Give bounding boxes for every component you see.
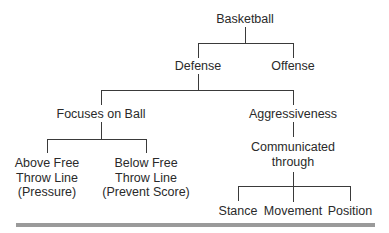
connector bbox=[146, 139, 147, 153]
node-defense: Defense bbox=[175, 59, 222, 74]
node-focuses-on-ball: Focuses on Ball bbox=[57, 107, 146, 122]
connector bbox=[238, 186, 351, 187]
node-position: Position bbox=[328, 204, 372, 219]
node-offense: Offense bbox=[271, 59, 315, 74]
connector bbox=[293, 122, 294, 137]
connector bbox=[101, 90, 102, 105]
bottom-rule bbox=[16, 223, 375, 227]
connector bbox=[101, 122, 102, 139]
connector bbox=[101, 90, 294, 91]
node-line: (Prevent Score) bbox=[102, 185, 190, 200]
node-basketball: Basketball bbox=[216, 12, 274, 27]
node-line: Communicated bbox=[251, 140, 335, 155]
connector bbox=[198, 43, 199, 58]
node-aggressiveness: Aggressiveness bbox=[249, 107, 337, 122]
node-line: Throw Line bbox=[102, 171, 190, 186]
node-line: through bbox=[251, 154, 335, 169]
node-communicated-through: Communicated through bbox=[250, 140, 336, 169]
connector bbox=[293, 43, 294, 58]
connector bbox=[245, 27, 246, 43]
node-line: Throw Line bbox=[15, 171, 80, 186]
node-line: Below Free bbox=[102, 156, 190, 171]
connector bbox=[293, 90, 294, 105]
connector bbox=[293, 172, 294, 202]
connector bbox=[238, 186, 239, 201]
connector bbox=[47, 139, 48, 153]
node-stance: Stance bbox=[219, 204, 258, 219]
node-line: (Pressure) bbox=[15, 185, 80, 200]
connector bbox=[350, 186, 351, 201]
node-movement: Movement bbox=[264, 204, 322, 219]
connector bbox=[198, 74, 199, 90]
basketball-tree-diagram: Basketball Defense Offense Focuses on Ba… bbox=[0, 0, 389, 233]
node-above-free-throw-line: Above Free Throw Line (Pressure) bbox=[15, 156, 80, 200]
connector bbox=[47, 139, 147, 140]
connector bbox=[198, 43, 294, 44]
node-below-free-throw-line: Below Free Throw Line (Prevent Score) bbox=[102, 156, 190, 200]
node-line: Above Free bbox=[15, 156, 80, 171]
